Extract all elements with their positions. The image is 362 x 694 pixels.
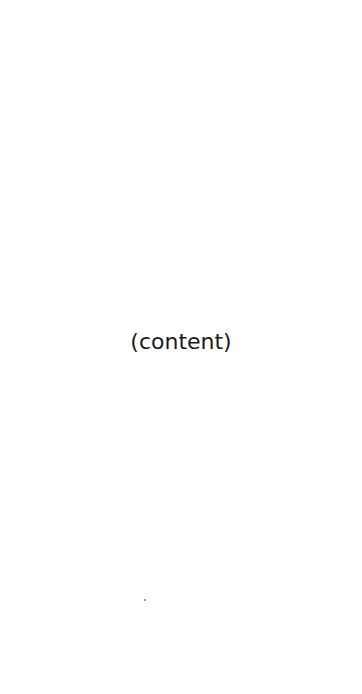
stray-dot: [144, 599, 146, 601]
content-placeholder-text: (content): [0, 327, 362, 357]
page: (content): [0, 0, 362, 694]
